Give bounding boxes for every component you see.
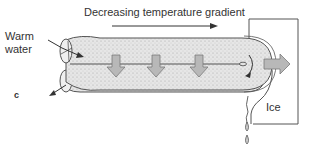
water-drop-2 xyxy=(246,135,249,144)
water-drop-1 xyxy=(246,122,249,131)
ice-melting-diagram: Decreasing temperature gradient Ice Warm… xyxy=(0,0,311,157)
gradient-label: Decreasing temperature gradient xyxy=(84,6,245,18)
inlet-tube xyxy=(60,36,272,90)
gradient-arrow xyxy=(112,23,218,29)
panel-label: c xyxy=(14,90,19,100)
ice-label: Ice xyxy=(266,101,281,113)
drip-stream xyxy=(246,96,248,123)
warm-label-line1: Warm xyxy=(5,30,34,42)
warm-label-line2: water xyxy=(4,43,32,55)
